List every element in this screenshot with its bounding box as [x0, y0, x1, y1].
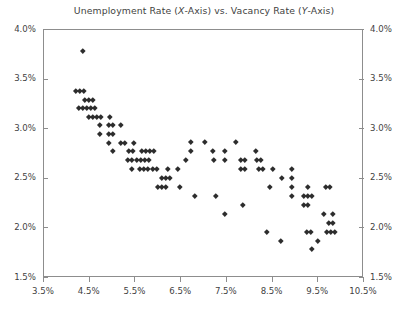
data-point	[289, 175, 294, 180]
x-axis-tick-label: 7.5%	[215, 287, 237, 296]
data-point	[106, 141, 111, 146]
data-point	[93, 105, 98, 110]
y-axis-tick-label-right: 4.0%	[370, 25, 392, 34]
x-axis-tick-mark	[272, 277, 273, 282]
y-axis-tick-label-right: 2.0%	[370, 223, 392, 232]
data-point	[167, 175, 172, 180]
x-axis-tick-label: 4.5%	[78, 287, 100, 296]
y-axis-tick-label-left: 2.0%	[14, 223, 36, 232]
data-point	[163, 184, 168, 189]
data-point	[131, 148, 136, 153]
data-point	[279, 175, 284, 180]
x-axis-tick-mark	[43, 277, 44, 282]
data-point	[110, 148, 115, 153]
data-point	[222, 148, 227, 153]
x-axis-tick-label: 5.5%	[124, 287, 146, 296]
data-point	[233, 140, 238, 145]
data-point	[308, 229, 313, 234]
data-point	[222, 157, 227, 162]
data-point	[189, 148, 194, 153]
data-point	[131, 141, 136, 146]
data-point	[110, 123, 115, 128]
y-axis-tick-mark	[359, 29, 364, 30]
data-point	[107, 114, 112, 119]
data-point	[289, 184, 294, 189]
x-axis-tick-mark	[226, 277, 227, 282]
data-points-layer	[44, 30, 362, 276]
x-axis-tick-mark	[134, 277, 135, 282]
data-point	[305, 184, 310, 189]
data-point	[270, 166, 275, 171]
data-point	[305, 202, 310, 207]
data-point	[289, 193, 294, 198]
data-point	[289, 166, 294, 171]
data-point	[211, 148, 216, 153]
y-axis-tick-label-left: 3.0%	[14, 124, 36, 133]
x-axis-tick-mark	[363, 277, 364, 282]
data-point	[253, 148, 258, 153]
y-axis-tick-label-left: 3.5%	[14, 74, 36, 83]
y-axis-tick-mark	[43, 29, 48, 30]
data-point	[242, 157, 247, 162]
data-point	[98, 123, 103, 128]
x-axis-tick-label: 9.5%	[306, 287, 328, 296]
y-axis-tick-label-left: 4.0%	[14, 25, 36, 34]
data-point	[212, 157, 217, 162]
data-point	[165, 166, 170, 171]
data-point	[240, 202, 245, 207]
data-point	[242, 166, 247, 171]
y-axis-tick-label-left: 2.5%	[14, 173, 36, 182]
x-axis-tick-label: 8.5%	[261, 287, 283, 296]
data-point	[184, 157, 189, 162]
data-point	[327, 184, 332, 189]
data-point	[322, 211, 327, 216]
data-point	[192, 193, 197, 198]
data-point	[213, 193, 218, 198]
data-point	[151, 148, 156, 153]
y-axis-tick-label-right: 3.5%	[370, 74, 392, 83]
y-axis-tick-label-right: 2.5%	[370, 173, 392, 182]
chart-title: Unemployment Rate (X-Axis) vs. Vacancy R…	[0, 5, 408, 16]
y-axis-tick-mark	[43, 79, 48, 80]
data-point	[98, 132, 103, 137]
y-axis-tick-mark	[359, 227, 364, 228]
x-axis-tick-mark	[89, 277, 90, 282]
data-point	[268, 184, 273, 189]
y-axis-tick-label-right: 3.0%	[370, 124, 392, 133]
data-point	[80, 48, 85, 53]
title-text: Unemployment Rate (	[74, 5, 178, 16]
title-text: -Axis) vs. Vacancy Rate (	[184, 5, 301, 16]
data-point	[330, 211, 335, 216]
data-point	[309, 193, 314, 198]
data-point	[315, 238, 320, 243]
x-axis-tick-mark	[317, 277, 318, 282]
data-point	[202, 140, 207, 145]
data-point	[110, 132, 115, 137]
data-point	[154, 166, 159, 171]
data-point	[98, 114, 103, 119]
x-axis-tick-mark	[180, 277, 181, 282]
x-axis-tick-label: 10.5%	[349, 287, 376, 296]
plot-area	[43, 29, 363, 277]
y-axis-tick-label-left: 1.5%	[14, 273, 36, 282]
data-point	[260, 166, 265, 171]
y-axis-tick-mark	[43, 178, 48, 179]
y-axis-tick-mark	[359, 79, 364, 80]
data-point	[122, 141, 127, 146]
data-point	[119, 123, 124, 128]
data-point	[309, 247, 314, 252]
data-point	[90, 97, 95, 102]
data-point	[265, 229, 270, 234]
data-point	[189, 140, 194, 145]
scatter-chart: Unemployment Rate (X-Axis) vs. Vacancy R…	[0, 0, 408, 309]
data-point	[330, 220, 335, 225]
data-point	[278, 238, 283, 243]
data-point	[129, 166, 134, 171]
data-point	[82, 88, 87, 93]
x-axis-tick-label: 3.5%	[32, 287, 54, 296]
title-text: -Axis)	[308, 5, 335, 16]
y-axis-tick-mark	[359, 178, 364, 179]
data-point	[258, 157, 263, 162]
y-axis-tick-mark	[43, 128, 48, 129]
data-point	[222, 211, 227, 216]
